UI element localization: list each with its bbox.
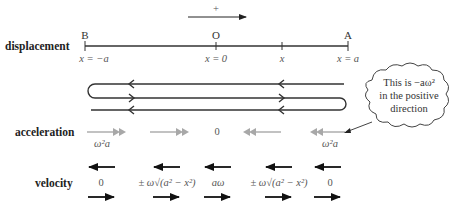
velocity-value-4: ± ω√(a² − x²) [250, 178, 307, 189]
axis-value-neg-a: x = −a [79, 54, 108, 65]
callout-text: This is −aω² in the positive direction [370, 76, 448, 115]
axis-value-x: x [280, 54, 285, 65]
acceleration-label: acceleration [15, 127, 74, 139]
velocity-value-3: aω [212, 178, 225, 189]
displacement-axis [85, 41, 348, 51]
point-a-label: A [344, 30, 352, 41]
velocity-label: velocity [35, 178, 73, 190]
positive-direction-label: + [213, 4, 219, 15]
accel-value-middle: 0 [214, 127, 219, 138]
point-b-label: B [81, 30, 88, 41]
oscillation-path [88, 80, 346, 114]
displacement-label: displacement [5, 41, 70, 53]
accel-arrow-left-2 [310, 128, 345, 136]
axis-value-zero: x = 0 [205, 54, 227, 65]
accel-arrow-right-1 [87, 128, 126, 136]
accel-value-left: ω²a [94, 139, 110, 150]
callout-line-3: direction [370, 102, 448, 115]
callout-line-2: in the positive [370, 89, 448, 102]
velocity-value-2: ± ω√(a² − x²) [138, 178, 195, 189]
accel-arrow-right-2 [150, 128, 189, 136]
accel-value-right: ω²a [322, 139, 338, 150]
callout-line-1: This is −aω² [370, 76, 448, 89]
point-o-label: O [212, 30, 220, 41]
axis-value-a: x = a [337, 54, 359, 65]
accel-arrow-left-1 [243, 128, 281, 136]
velocity-value-5: 0 [327, 178, 332, 189]
velocity-value-1: 0 [98, 178, 103, 189]
